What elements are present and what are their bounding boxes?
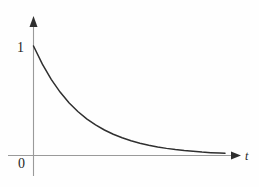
- x-axis-arrowhead-icon: [231, 152, 241, 160]
- x-axis-label-t: t: [245, 150, 248, 162]
- origin-label-zero: 0: [18, 157, 25, 171]
- plot-canvas: [0, 0, 259, 187]
- exponential-decay-curve: [34, 46, 226, 153]
- y-axis-tick-label-one: 1: [17, 41, 24, 55]
- y-axis-arrowhead-icon: [30, 16, 38, 27]
- exponential-decay-figure: 1 0 t: [0, 0, 259, 187]
